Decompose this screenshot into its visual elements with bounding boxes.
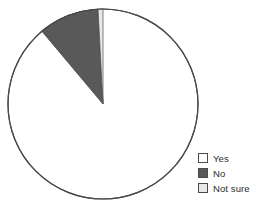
legend-swatch-not-sure [198,183,208,193]
legend-item-yes[interactable]: Yes [198,152,262,164]
chart-legend: Yes No Not sure [198,152,262,194]
legend-swatch-yes [198,153,208,163]
legend-label-not-sure: Not sure [213,183,250,194]
legend-item-not-sure[interactable]: Not sure [198,182,262,194]
pie-chart-figure: Yes No Not sure [0,0,264,213]
legend-label-yes: Yes [213,153,229,164]
legend-label-no: No [213,168,225,179]
legend-swatch-no [198,168,208,178]
legend-item-no[interactable]: No [198,167,262,179]
